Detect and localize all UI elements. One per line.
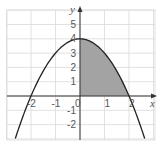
y-tick-label: 3 xyxy=(70,48,76,59)
x-tick-label: 2 xyxy=(129,98,135,109)
y-tick-label: 5 xyxy=(70,19,76,30)
y-tick-label: -1 xyxy=(67,105,76,116)
x-tick-label: 1 xyxy=(105,98,111,109)
y-tick-label: 4 xyxy=(70,33,76,44)
x-tick-label: -1 xyxy=(52,98,61,109)
y-axis-label: y xyxy=(69,3,75,15)
y-tick-label: -2 xyxy=(67,119,76,130)
parabola-chart: -2-1012-2-112345 x y xyxy=(0,0,160,148)
y-tick-label: 2 xyxy=(70,62,76,73)
x-axis-label: x xyxy=(149,97,155,109)
y-axis-arrow-icon xyxy=(78,6,83,12)
x-tick-label: -2 xyxy=(27,98,36,109)
y-tick-label: 1 xyxy=(70,76,76,87)
